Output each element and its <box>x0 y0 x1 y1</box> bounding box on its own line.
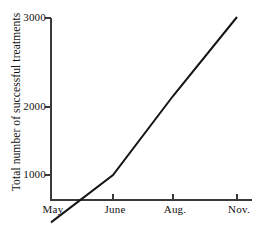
x-tick-label-aug: Aug. <box>164 203 187 215</box>
x-tick-label-june: June <box>105 203 126 215</box>
x-tick-label-nov: Nov. <box>228 203 250 215</box>
x-tick-label-may: May <box>43 203 64 215</box>
line-chart: 3000 2000 1000 May June Aug. Nov. Total … <box>0 0 261 230</box>
series-line-treatments <box>51 17 237 222</box>
y-axis-title-wrap: Total number of successful treatments <box>10 2 28 202</box>
plot-area <box>0 0 261 230</box>
y-axis-title: Total number of successful treatments <box>10 2 22 202</box>
